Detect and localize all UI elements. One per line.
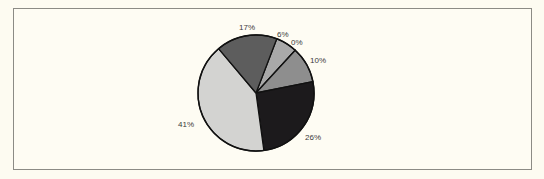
- label-17pct: 17%: [239, 23, 255, 32]
- pie-slices: [198, 35, 314, 151]
- pie-chart: 6% 0% 10% 26% 41% 17%: [0, 0, 544, 179]
- label-10pct: 10%: [310, 56, 326, 65]
- label-41pct: 41%: [178, 120, 194, 129]
- label-0pct: 0%: [291, 38, 303, 47]
- label-6pct: 6%: [277, 30, 289, 39]
- label-26pct: 26%: [305, 133, 321, 142]
